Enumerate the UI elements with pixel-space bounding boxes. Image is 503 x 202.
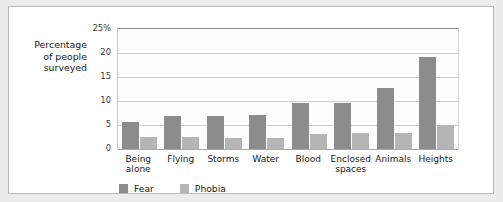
- x-axis-label: Heights: [415, 154, 458, 164]
- y-axis-tick-25: 25%: [85, 23, 111, 33]
- y-axis-tick-15: 15: [85, 71, 111, 81]
- bar-group: [122, 29, 157, 149]
- chart-legend: FearPhobia: [119, 183, 252, 194]
- y-axis-title: Percentage of people surveyed: [15, 39, 87, 74]
- x-axis-label: Enclosed spaces: [330, 154, 373, 175]
- x-axis-label: Water: [245, 154, 288, 164]
- legend-item-phobia[interactable]: Phobia: [180, 183, 226, 194]
- plot-area: [117, 28, 459, 149]
- bar-phobia: [225, 138, 242, 149]
- y-axis-tick-5: 5: [85, 119, 111, 129]
- x-axis-baseline: [118, 149, 458, 150]
- bar-group: [164, 29, 199, 149]
- bar-phobia: [182, 137, 199, 149]
- bar-fear: [292, 103, 309, 149]
- legend-label: Fear: [134, 183, 154, 194]
- legend-item-fear[interactable]: Fear: [119, 183, 154, 194]
- bar-phobia: [310, 134, 327, 149]
- bar-group: [419, 29, 454, 149]
- y-axis-tick-20: 20: [85, 47, 111, 57]
- y-axis-tick-0: 0: [85, 143, 111, 153]
- legend-label: Phobia: [195, 183, 226, 194]
- x-axis-label: Being alone: [117, 154, 160, 175]
- figure-outer-background: Percentage of people surveyed 25%2015105…: [0, 0, 503, 202]
- legend-swatch-icon: [119, 184, 128, 193]
- bar-phobia: [352, 133, 369, 149]
- bar-fear: [334, 103, 351, 149]
- bar-group: [334, 29, 369, 149]
- bar-group: [377, 29, 412, 149]
- bar-phobia: [267, 138, 284, 149]
- bar-group: [292, 29, 327, 149]
- x-axis-label: Blood: [287, 154, 330, 164]
- bar-fear: [164, 116, 181, 149]
- legend-swatch-icon: [180, 184, 189, 193]
- y-axis-tick-10: 10: [85, 95, 111, 105]
- chart-panel: Percentage of people surveyed 25%2015105…: [8, 6, 494, 194]
- bar-fear: [377, 88, 394, 149]
- bar-phobia: [395, 133, 412, 149]
- bar-phobia: [140, 137, 157, 149]
- bar-phobia: [437, 125, 454, 149]
- bar-fear: [419, 57, 436, 149]
- x-axis-label: Animals: [372, 154, 415, 164]
- bar-fear: [122, 122, 139, 149]
- x-axis-label: Flying: [160, 154, 203, 164]
- bar-fear: [207, 116, 224, 149]
- bar-group: [207, 29, 242, 149]
- x-axis-label: Storms: [202, 154, 245, 164]
- bar-fear: [249, 115, 266, 149]
- bar-group: [249, 29, 284, 149]
